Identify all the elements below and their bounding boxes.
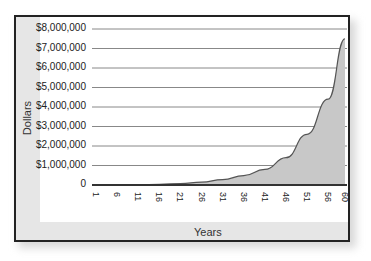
x-axis-title: Years: [194, 226, 222, 238]
plot-panel: 0$1,000,000$2,000,000$3,000,000$4,000,00…: [40, 17, 348, 222]
x-tick-label: 6: [112, 192, 122, 197]
x-tick-label: 46: [281, 192, 291, 202]
x-tick-label: 41: [260, 192, 270, 202]
chart-frame: Dollars 0$1,000,000$2,000,000$3,000,000$…: [14, 15, 350, 242]
x-tick-label: 51: [302, 192, 312, 202]
area-fill: [96, 39, 345, 185]
x-tick-label: 1: [91, 192, 101, 197]
x-axis-label-strip: Years: [16, 222, 348, 240]
x-tick-label: 56: [323, 192, 333, 202]
x-tick-label: 26: [197, 192, 207, 202]
x-tick-label: 11: [133, 192, 143, 201]
x-tick-label: 31: [218, 192, 228, 202]
x-tick-label: 21: [175, 192, 185, 202]
x-tick-label: 60: [340, 192, 350, 202]
x-tick-label: 16: [154, 192, 164, 202]
x-tick-label: 36: [239, 192, 249, 202]
